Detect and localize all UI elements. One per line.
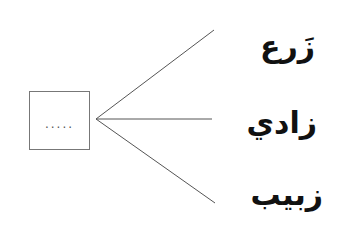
connector-line-top <box>96 30 214 119</box>
connector-line-bottom <box>96 119 215 203</box>
word-zara: زَرع <box>260 32 315 62</box>
blank-answer-box[interactable]: ..... <box>29 91 90 150</box>
branch-diagram: ..... زَرع زادي زبيب <box>0 0 353 235</box>
blank-placeholder: ..... <box>45 117 74 131</box>
word-zadi: زادي <box>247 108 317 138</box>
word-zabib: زبيب <box>250 180 323 210</box>
